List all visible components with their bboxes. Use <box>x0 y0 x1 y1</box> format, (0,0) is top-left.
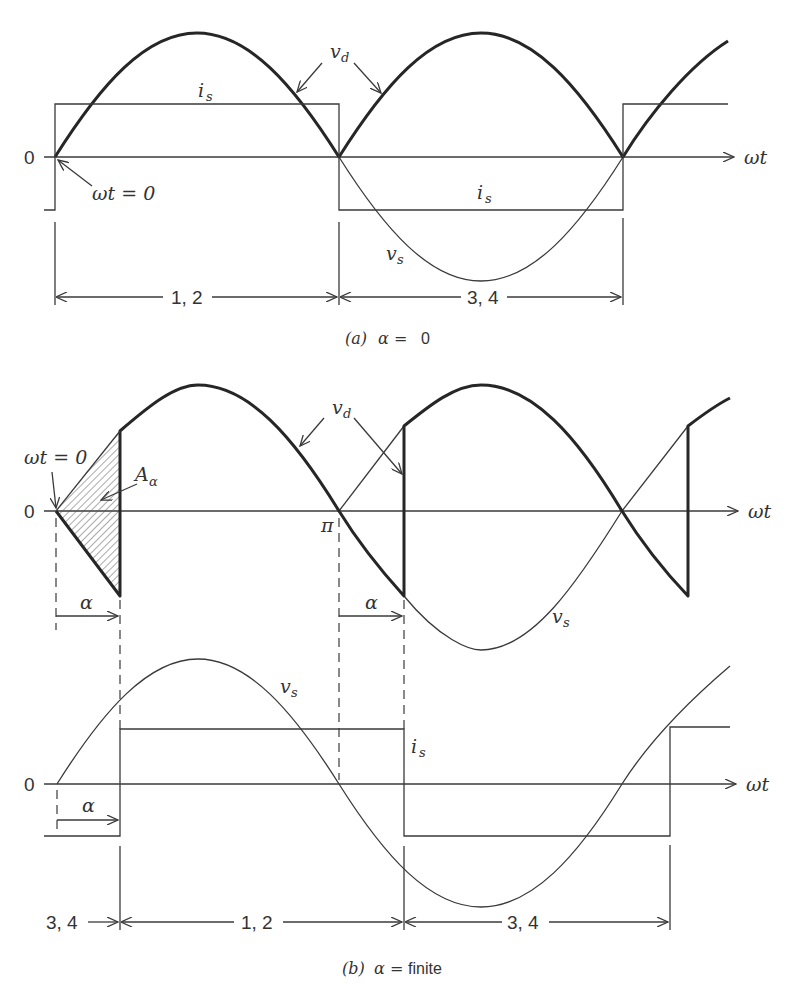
vs-curve-b-lower <box>57 659 730 907</box>
interval-2-label-a: 3, 4 <box>467 287 499 308</box>
vs-label-a: v s <box>386 242 404 267</box>
vd-label-a: v d <box>330 40 349 65</box>
svg-text:v: v <box>330 40 341 62</box>
svg-text:(a): (a) <box>345 329 367 348</box>
vd-curve-a <box>55 33 728 157</box>
pi-label: π <box>320 514 334 536</box>
vd-arrow-2-b <box>354 418 402 474</box>
svg-text:α =: α = <box>378 329 407 348</box>
vd-arrow-1-a <box>297 63 322 92</box>
origin-arrow-a <box>58 160 92 186</box>
svg-text:s: s <box>397 252 404 267</box>
svg-text:s: s <box>206 89 213 104</box>
alpha-label-1: α <box>80 591 93 613</box>
vs-label-b-lower: v s <box>280 675 298 700</box>
svg-text:v: v <box>332 396 343 418</box>
vs-curve-a <box>339 157 623 281</box>
caption-b: (b) α = finite <box>342 959 442 978</box>
alpha-label-3: α <box>82 794 95 816</box>
panel-b-upper: 0 ωt α α π ωt = 0 A α <box>24 385 771 780</box>
vs-label-b-upper: v s <box>552 605 570 630</box>
zero-label-b-lower: 0 <box>24 774 35 795</box>
vd-curve-b <box>56 385 730 596</box>
zero-label-a: 0 <box>24 147 35 168</box>
svg-text:i: i <box>198 79 204 101</box>
caption-a: (a) α = 0 <box>345 329 430 348</box>
svg-text:v: v <box>386 242 397 264</box>
svg-text:i: i <box>477 181 483 203</box>
panel-b-lower: 0 ωt α v s i s 3, 4 1, 2 3, 4 <box>24 659 769 978</box>
is-label-top-a: i s <box>198 79 213 104</box>
axis-label-a: ωt <box>744 146 767 168</box>
waveform-diagram: 0 ωt i s i s v s v d ωt = 0 <box>0 0 798 996</box>
interval-1-label-b: 1, 2 <box>241 912 273 933</box>
svg-text:s: s <box>291 685 298 700</box>
svg-text:d: d <box>343 406 351 421</box>
svg-text:0: 0 <box>421 330 430 347</box>
svg-text:s: s <box>563 615 570 630</box>
is-label-b: i s <box>411 735 426 760</box>
vd-arrow-1-b <box>300 418 324 446</box>
svg-text:A: A <box>133 463 149 485</box>
interval-2-label-b: 3, 4 <box>507 912 539 933</box>
axis-label-b-lower: ωt <box>746 773 769 795</box>
svg-text:s: s <box>485 191 492 206</box>
svg-text:s: s <box>419 745 426 760</box>
panel-a: 0 ωt i s i s v s v d ωt = 0 <box>24 33 767 348</box>
is-label-bottom-a: i s <box>477 181 492 206</box>
vs-upper-curve <box>404 426 688 650</box>
svg-text:v: v <box>280 675 291 697</box>
svg-text:(b): (b) <box>342 959 365 978</box>
vd-label-b: v d <box>332 396 351 421</box>
area-label: A α <box>133 463 158 489</box>
origin-label-a: ωt = 0 <box>92 182 155 204</box>
svg-text:v: v <box>552 605 563 627</box>
svg-text:d: d <box>341 50 349 65</box>
origin-label-b: ωt = 0 <box>24 446 87 468</box>
origin-arrow-b <box>52 472 56 508</box>
is-waveform-b <box>44 727 730 836</box>
interval-1-label-a: 1, 2 <box>171 287 203 308</box>
axis-label-b-upper: ωt <box>748 500 771 522</box>
svg-text:i: i <box>411 735 417 757</box>
svg-text:α: α <box>149 474 158 489</box>
svg-text:α =: α = <box>374 959 403 978</box>
zero-label-b-upper: 0 <box>24 501 35 522</box>
interval-0-label-b: 3, 4 <box>46 912 78 933</box>
vd-arrow-2-a <box>354 63 381 93</box>
alpha-label-2: α <box>365 591 378 613</box>
svg-text:finite: finite <box>408 960 442 977</box>
